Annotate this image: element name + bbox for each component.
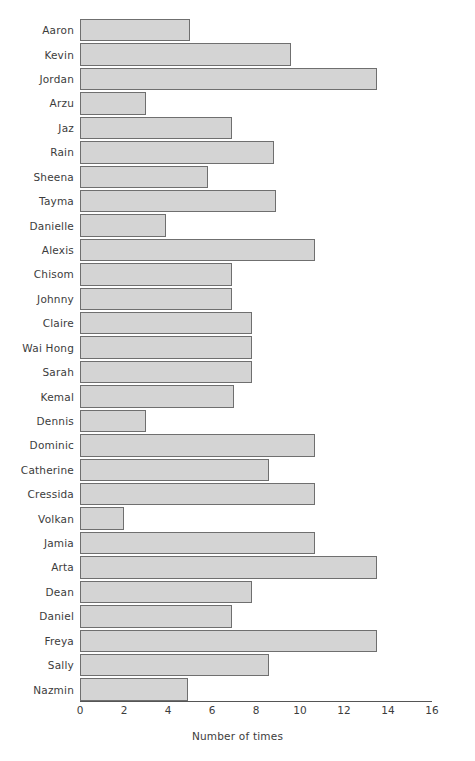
x-axis-tick: 16 xyxy=(425,704,438,716)
y-axis-label-text: Johnny xyxy=(37,293,74,305)
bar-row xyxy=(80,384,432,408)
bar xyxy=(80,532,315,554)
y-axis-label-text: Sheena xyxy=(33,171,74,183)
bar-row xyxy=(80,116,432,140)
y-axis-label: Cressida xyxy=(0,482,74,506)
y-axis-label-text: Arzu xyxy=(50,97,74,109)
bar-row xyxy=(80,287,432,311)
x-axis-tick: 10 xyxy=(293,704,306,716)
y-axis-label-text: Kevin xyxy=(44,49,74,61)
bar-row xyxy=(80,360,432,384)
y-axis-label-text: Catherine xyxy=(21,464,74,476)
bar-row xyxy=(80,42,432,66)
y-axis-label: Jordan xyxy=(0,67,74,91)
bar-row xyxy=(80,409,432,433)
bar-row xyxy=(80,604,432,628)
y-axis-label: Arzu xyxy=(0,91,74,115)
bar xyxy=(80,483,315,505)
x-axis-tick: 6 xyxy=(209,704,216,716)
bar-row xyxy=(80,482,432,506)
y-axis-label: Chisom xyxy=(0,262,74,286)
y-axis-label-text: Danielle xyxy=(30,220,74,232)
bar xyxy=(80,68,377,90)
bar-row xyxy=(80,311,432,335)
bar-row xyxy=(80,67,432,91)
x-axis-tick: 0 xyxy=(77,704,84,716)
bar xyxy=(80,190,276,212)
y-axis-label: Tayma xyxy=(0,189,74,213)
bar xyxy=(80,312,252,334)
y-axis-label-text: Cressida xyxy=(28,488,74,500)
y-axis-label: Sheena xyxy=(0,165,74,189)
bar xyxy=(80,263,232,285)
y-axis-label-text: Jamia xyxy=(44,537,74,549)
bar-row xyxy=(80,213,432,237)
y-axis-label: Dominic xyxy=(0,433,74,457)
y-axis-label: Alexis xyxy=(0,238,74,262)
bar-chart-figure: AaronKevinJordanArzuJazRainSheenaTaymaDa… xyxy=(0,0,475,761)
bar xyxy=(80,214,166,236)
y-axis-label: Sarah xyxy=(0,360,74,384)
bar xyxy=(80,43,291,65)
bar-row xyxy=(80,140,432,164)
bar-row xyxy=(80,506,432,530)
bar xyxy=(80,556,377,578)
y-axis-label-text: Jaz xyxy=(58,122,74,134)
bar xyxy=(80,678,188,700)
plot-area xyxy=(80,18,432,702)
bar xyxy=(80,385,234,407)
bar xyxy=(80,654,269,676)
bar-row xyxy=(80,677,432,701)
y-axis-label-text: Dennis xyxy=(37,415,74,427)
y-axis-label: Danielle xyxy=(0,213,74,237)
bar xyxy=(80,410,146,432)
bar-row xyxy=(80,238,432,262)
y-axis-label: Sally xyxy=(0,653,74,677)
bar xyxy=(80,630,377,652)
x-axis-tick: 2 xyxy=(121,704,128,716)
x-axis-tick: 12 xyxy=(337,704,350,716)
y-axis-label: Kevin xyxy=(0,42,74,66)
y-axis-label: Dean xyxy=(0,580,74,604)
bar xyxy=(80,605,232,627)
y-axis-label: Wai Hong xyxy=(0,335,74,359)
y-axis-label-text: Chisom xyxy=(34,268,74,280)
y-axis-label: Dennis xyxy=(0,409,74,433)
bar xyxy=(80,336,252,358)
bar-row xyxy=(80,335,432,359)
bar-row xyxy=(80,580,432,604)
bar-row xyxy=(80,189,432,213)
y-axis-label-text: Alexis xyxy=(42,244,74,256)
bar-row xyxy=(80,165,432,189)
x-axis-tick-labels: 0246810121416 xyxy=(80,704,432,722)
x-axis-title: Number of times xyxy=(0,730,475,742)
y-axis-label-text: Freya xyxy=(45,635,74,647)
y-axis-label-text: Volkan xyxy=(38,513,74,525)
y-axis-label: Volkan xyxy=(0,506,74,530)
x-axis-tick: 4 xyxy=(165,704,172,716)
y-axis-label: Arta xyxy=(0,555,74,579)
bar-row xyxy=(80,18,432,42)
y-axis-label: Rain xyxy=(0,140,74,164)
bar xyxy=(80,19,190,41)
y-axis-label-text: Aaron xyxy=(42,24,74,36)
y-axis-label-text: Kemal xyxy=(41,391,74,403)
bar-row xyxy=(80,433,432,457)
y-axis-label-text: Nazmin xyxy=(33,684,74,696)
y-axis-label: Daniel xyxy=(0,604,74,628)
bar xyxy=(80,459,269,481)
y-axis-label: Jaz xyxy=(0,116,74,140)
bar xyxy=(80,92,146,114)
y-axis-label: Kemal xyxy=(0,384,74,408)
bar xyxy=(80,581,252,603)
bar xyxy=(80,239,315,261)
bar xyxy=(80,166,208,188)
bar-row xyxy=(80,262,432,286)
y-axis-label: Claire xyxy=(0,311,74,335)
bar xyxy=(80,434,315,456)
y-axis-label-text: Rain xyxy=(50,146,74,158)
y-axis-label: Johnny xyxy=(0,287,74,311)
y-axis-label-text: Sarah xyxy=(42,366,74,378)
bar-row xyxy=(80,653,432,677)
y-axis-label-text: Sally xyxy=(48,659,74,671)
